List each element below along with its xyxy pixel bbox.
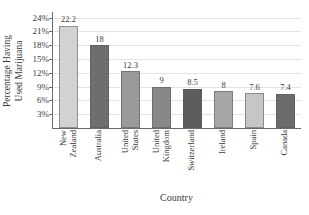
x-axis-label-slot: UnitedKingdom bbox=[145, 130, 176, 185]
y-axis-title-line2: Used Marijuana bbox=[13, 35, 25, 107]
x-axis-label-slot: Canada bbox=[270, 130, 301, 185]
bar[interactable] bbox=[245, 93, 264, 128]
x-axis-tick-label-line: United bbox=[151, 130, 161, 162]
bar-slot: 8.5 bbox=[177, 12, 208, 128]
y-axis-tick-labels: 3%6%9%12%15%18%21%24% bbox=[24, 10, 50, 132]
x-axis-tick-label-line: States bbox=[130, 130, 140, 153]
bar-slot: 22.2 bbox=[53, 12, 84, 128]
x-axis-tick-label: Switzerland bbox=[187, 130, 197, 171]
x-axis-tick-label-line: Zealand bbox=[68, 130, 78, 157]
plot-area: 22.21812.398.587.67.4 bbox=[52, 12, 301, 129]
x-axis-tick-label: Spain bbox=[250, 130, 260, 149]
x-axis-tick-label-line: United bbox=[120, 130, 130, 153]
y-axis-tick-label: 9% bbox=[37, 82, 49, 91]
x-axis-tick-label-line: Australia bbox=[94, 130, 104, 161]
bar[interactable] bbox=[276, 94, 295, 128]
x-axis-tick-label-line: Switzerland bbox=[187, 130, 197, 171]
bar[interactable] bbox=[90, 45, 109, 128]
bar[interactable] bbox=[183, 89, 202, 128]
x-axis-tick-label: Canada bbox=[281, 130, 291, 156]
bar-value-label: 7.6 bbox=[249, 83, 260, 92]
bar[interactable] bbox=[121, 71, 140, 128]
y-axis-tick-label: 12% bbox=[33, 68, 50, 77]
bar-chart: Percentage Having Used Marijuana 3%6%9%1… bbox=[0, 0, 309, 215]
bar-value-label: 8 bbox=[221, 81, 225, 90]
bar-value-label: 9 bbox=[159, 76, 163, 85]
bar-value-label: 8.5 bbox=[187, 78, 198, 87]
y-axis-tick-label: 15% bbox=[33, 54, 50, 63]
bar[interactable] bbox=[152, 87, 171, 128]
x-axis-tick-label: NewZealand bbox=[58, 130, 77, 157]
x-axis-title: Country bbox=[52, 192, 301, 203]
bar-slot: 7.6 bbox=[239, 12, 270, 128]
x-axis-label-slot: Australia bbox=[83, 130, 114, 185]
bar-slot: 18 bbox=[84, 12, 115, 128]
x-axis-label-slot: Ireland bbox=[208, 130, 239, 185]
bar-value-label: 22.2 bbox=[61, 15, 76, 24]
x-axis-tick-label: Ireland bbox=[218, 130, 228, 154]
bar-value-label: 18 bbox=[95, 35, 104, 44]
x-axis-tick-label-line: Ireland bbox=[218, 130, 228, 154]
bar[interactable] bbox=[59, 26, 78, 128]
x-axis-tick-label: UnitedStates bbox=[120, 130, 139, 153]
x-axis-tick-label-line: New bbox=[58, 130, 68, 157]
bar-value-label: 12.3 bbox=[123, 61, 138, 70]
bar-series: 22.21812.398.587.67.4 bbox=[53, 12, 301, 128]
x-axis-label-slot: Switzerland bbox=[177, 130, 208, 185]
bar-slot: 12.3 bbox=[115, 12, 146, 128]
y-axis-title: Percentage Having Used Marijuana bbox=[0, 12, 26, 130]
y-axis-tick-label: 3% bbox=[37, 110, 49, 119]
bar[interactable] bbox=[214, 91, 233, 128]
x-axis-label-slot: NewZealand bbox=[52, 130, 83, 185]
x-axis-label-slot: Spain bbox=[239, 130, 270, 185]
x-axis-tick-label: UnitedKingdom bbox=[151, 130, 170, 162]
x-axis-tick-label: Australia bbox=[94, 130, 104, 161]
y-axis-title-line1: Percentage Having bbox=[2, 35, 14, 107]
y-axis-tick-label: 21% bbox=[33, 27, 50, 36]
x-axis-tick-label-line: Spain bbox=[250, 130, 260, 149]
x-axis-tick-label-line: Kingdom bbox=[161, 130, 171, 162]
bar-slot: 9 bbox=[146, 12, 177, 128]
x-axis-tick-label-line: Canada bbox=[281, 130, 291, 156]
x-axis-label-slot: UnitedStates bbox=[114, 130, 145, 185]
bar-slot: 8 bbox=[208, 12, 239, 128]
y-axis-tick-label: 24% bbox=[33, 13, 50, 22]
bar-value-label: 7.4 bbox=[280, 83, 291, 92]
y-axis-tick-label: 6% bbox=[37, 96, 49, 105]
bar-slot: 7.4 bbox=[270, 12, 301, 128]
y-axis-tick-label: 18% bbox=[33, 41, 50, 50]
x-axis-tick-labels: NewZealandAustraliaUnitedStatesUnitedKin… bbox=[52, 130, 301, 185]
